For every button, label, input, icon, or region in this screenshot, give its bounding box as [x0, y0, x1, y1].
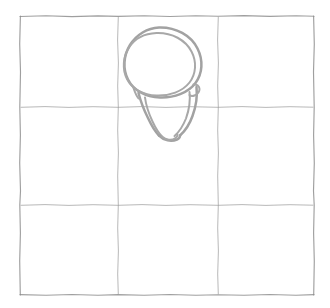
grid-cell-r2c2[interactable]: [118, 107, 218, 205]
grid-cell-r1c1[interactable]: [20, 16, 118, 107]
sketch-canvas: [0, 0, 330, 308]
grid-cell-r2c3[interactable]: [218, 107, 314, 205]
grid-cell-r1c3[interactable]: [218, 16, 314, 107]
grid-cell-r3c3[interactable]: [218, 205, 314, 295]
grid-cell-r1c2[interactable]: [118, 16, 218, 107]
grid-cell-r2c1[interactable]: [20, 107, 118, 205]
grid-cell-r3c1[interactable]: [20, 205, 118, 295]
grid-cell-r3c2[interactable]: [118, 205, 218, 295]
